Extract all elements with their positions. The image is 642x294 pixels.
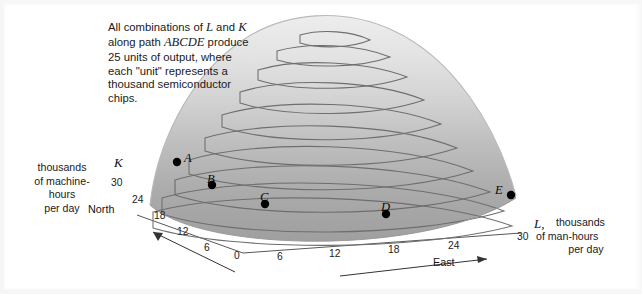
l-tick-30: 30 xyxy=(517,231,528,244)
point-a-marker xyxy=(173,158,181,166)
east-arrow-shaft xyxy=(340,259,487,276)
caption-line4: each "unit" represents a xyxy=(108,65,228,77)
north-label: North xyxy=(88,203,114,216)
k-tick-6: 6 xyxy=(204,242,210,255)
l-tick-24: 24 xyxy=(448,240,459,253)
origin-tick-0: 0 xyxy=(234,250,240,263)
caption-line1-mid: and xyxy=(213,21,238,33)
point-label-b: B xyxy=(207,172,215,187)
caption-line2-post: produce xyxy=(204,36,248,48)
figure-canvas: All combinations of L and K along path A… xyxy=(0,0,642,294)
l-desc-line3: per day xyxy=(536,243,636,257)
caption-line2-pre: along path xyxy=(108,36,164,48)
k-desc-line1: thousands xyxy=(38,161,87,173)
l-tick-12: 12 xyxy=(329,248,340,261)
point-label-a: A xyxy=(184,151,192,166)
l-tick-18: 18 xyxy=(388,244,399,257)
east-label: East xyxy=(433,256,455,269)
l-tick-6: 6 xyxy=(277,251,283,264)
caption-var-abcde: ABCDE xyxy=(164,35,205,49)
caption-var-l: L xyxy=(206,20,213,34)
caption-var-k: K xyxy=(238,20,246,34)
l-desc-line2: of man-hours xyxy=(536,230,598,242)
caption-line3: 25 units of output, where xyxy=(108,51,232,63)
point-label-d: D xyxy=(381,200,390,215)
l-desc-line1: thousands xyxy=(536,216,605,228)
point-label-e: E xyxy=(495,183,503,198)
k-desc-line3: hours xyxy=(49,188,76,200)
caption-line6: chips. xyxy=(108,92,138,104)
k-tick-24: 24 xyxy=(132,194,143,207)
k-axis-variable: K xyxy=(114,155,123,171)
l-axis-description: thousands of man-hours per day xyxy=(536,216,636,257)
caption-line5: thousand semiconductor xyxy=(108,78,231,90)
k-tick-18: 18 xyxy=(154,210,165,223)
k-desc-line4: per day xyxy=(44,202,79,214)
caption-line1-pre: All combinations of xyxy=(108,21,206,33)
k-tick-12: 12 xyxy=(177,226,188,239)
k-desc-line2: of machine- xyxy=(34,175,89,187)
point-e-marker xyxy=(507,191,515,199)
east-arrow-head xyxy=(477,256,487,263)
point-label-c: C xyxy=(260,190,268,205)
caption-text: All combinations of L and K along path A… xyxy=(108,20,280,106)
k-tick-30: 30 xyxy=(111,177,122,190)
